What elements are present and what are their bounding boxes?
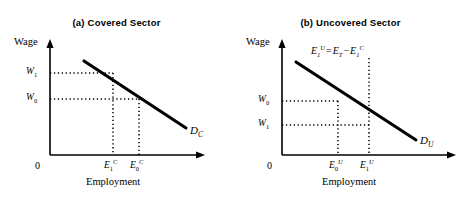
economics-figure: (a)Covered Sector Wage Employment 0 xyxy=(0,0,467,201)
panel-b-x-tick-e1u: E1U xyxy=(360,158,374,172)
panel-a-origin-label: 0 xyxy=(35,160,40,171)
panel-b-y-tick-w1: W1 xyxy=(258,118,269,130)
panel-b-y-axis-label: Wage xyxy=(246,36,270,47)
panel-a-x-axis xyxy=(50,151,205,158)
panel-a-y-axis-label: Wage xyxy=(14,36,38,47)
panel-b-y-tick-w0: W0 xyxy=(258,94,269,106)
panel-b-y-axis xyxy=(278,39,285,155)
panel-a-y-tick-w0: W0 xyxy=(26,92,37,104)
panel-b-equation-annotation: E1U=ET−E1C xyxy=(311,44,364,58)
panel-b-curve-label: DU xyxy=(420,134,433,149)
panel-a-y-axis xyxy=(46,39,53,155)
panel-uncovered-sector: (b)Uncovered Sector Wage Employment 0 W0 xyxy=(234,0,467,201)
panel-a-x-tick-e0c: E0C xyxy=(130,158,143,172)
panel-covered-sector: (a)Covered Sector Wage Employment 0 xyxy=(0,0,233,201)
panel-a-demand-curve xyxy=(84,61,186,128)
panel-a-x-axis-label: Employment xyxy=(86,176,140,187)
panel-b-x-tick-e0u: E0U xyxy=(329,158,343,172)
panel-b-x-axis-label: Employment xyxy=(322,176,376,187)
panel-b-origin-label: 0 xyxy=(267,160,272,171)
panel-a-x-tick-e1c: E1C xyxy=(104,158,117,172)
panel-a-y-tick-w1: W1 xyxy=(26,66,37,78)
panel-a-curve-label: DC xyxy=(190,124,203,139)
